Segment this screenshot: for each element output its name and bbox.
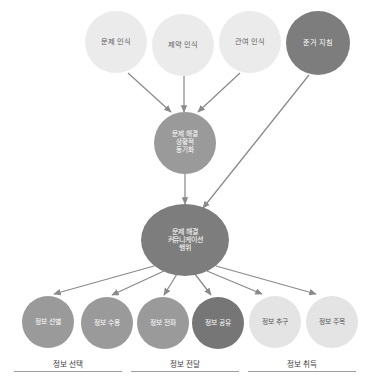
node-information-permitting[interactable]: 정보 수용 bbox=[81, 297, 133, 349]
edge-action-to-information-sharing bbox=[195, 274, 211, 295]
node-problem-recognition[interactable]: 문제 인식 bbox=[85, 11, 147, 73]
node-constraint-recognition-label: 제약 인식 bbox=[152, 41, 214, 49]
group-information-transmission-label: 정보 전달 bbox=[131, 358, 239, 369]
edge-action-to-information-seeking bbox=[207, 271, 262, 294]
node-referent-criterion-label: 준거 지침 bbox=[286, 39, 350, 47]
node-information-forefending-label: 정보 선별 bbox=[22, 318, 74, 326]
node-information-seeking[interactable]: 정보 추구 bbox=[249, 296, 301, 348]
group-information-transmission-rule bbox=[131, 371, 239, 372]
diagram-canvas: 문제 인식 제약 인식 관여 인식 준거 지침 문제 해결 상황적 동기화 문제… bbox=[0, 0, 369, 380]
edge-action-to-information-forefending bbox=[54, 266, 154, 294]
node-communicative-action[interactable]: 문제 해결 커뮤니케이션 행위 bbox=[141, 204, 229, 276]
node-situational-motivation[interactable]: 문제 해결 상황적 동기화 bbox=[154, 112, 216, 174]
edge-action-to-information-permitting bbox=[112, 271, 164, 295]
node-information-sharing-label: 정보 공유 bbox=[192, 319, 244, 327]
node-involvement-recognition[interactable]: 관여 인식 bbox=[219, 11, 281, 73]
node-information-attending[interactable]: 정보 주목 bbox=[306, 296, 358, 348]
edge-action-to-information-forwarding bbox=[164, 274, 177, 295]
group-information-acquisition: 정보 취득 bbox=[248, 352, 356, 372]
node-problem-recognition-label: 문제 인식 bbox=[85, 38, 147, 46]
node-situational-motivation-label: 문제 해결 상황적 동기화 bbox=[154, 131, 216, 154]
group-information-transmission: 정보 전달 bbox=[131, 352, 239, 372]
group-information-acquisition-label: 정보 취득 bbox=[248, 358, 356, 369]
edge-action-to-information-attending bbox=[216, 266, 316, 294]
node-involvement-recognition-label: 관여 인식 bbox=[219, 38, 281, 46]
node-information-forwarding-label: 정보 전파 bbox=[137, 319, 189, 327]
node-information-sharing[interactable]: 정보 공유 bbox=[192, 297, 244, 349]
group-information-selection-label: 정보 선택 bbox=[14, 358, 122, 369]
group-information-acquisition-rule bbox=[248, 371, 356, 372]
node-referent-criterion[interactable]: 준거 지침 bbox=[286, 11, 350, 75]
node-information-attending-label: 정보 주목 bbox=[306, 318, 358, 326]
group-information-selection: 정보 선택 bbox=[14, 352, 122, 372]
edge-problem-recognition-to-motivation bbox=[128, 73, 171, 112]
node-information-permitting-label: 정보 수용 bbox=[81, 319, 133, 327]
edge-referent-criterion-to-action bbox=[203, 75, 309, 208]
node-information-seeking-label: 정보 추구 bbox=[249, 318, 301, 326]
edge-involvement-recognition-to-motivation bbox=[198, 73, 240, 112]
node-information-forefending[interactable]: 정보 선별 bbox=[22, 296, 74, 348]
node-information-forwarding[interactable]: 정보 전파 bbox=[137, 297, 189, 349]
node-constraint-recognition[interactable]: 제약 인식 bbox=[152, 14, 214, 76]
node-communicative-action-label: 문제 해결 커뮤니케이션 행위 bbox=[141, 228, 229, 253]
group-information-selection-rule bbox=[14, 371, 122, 372]
